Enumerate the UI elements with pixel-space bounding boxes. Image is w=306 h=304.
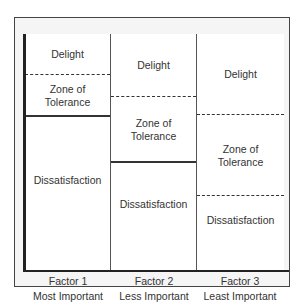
factor1-tolerance-zone: Zone of Tolerance [25, 76, 110, 115]
zone-label: Tolerance [131, 130, 177, 143]
factor3-dissatisfaction-zone: Dissatisfaction [197, 197, 284, 243]
factor3-axis-label: Factor 3 Least Important [190, 274, 290, 304]
factor2-delight-boundary [111, 96, 196, 97]
factor3-tolerance-zone: Zone of Tolerance [197, 116, 284, 195]
zone-label: Zone of [136, 117, 172, 130]
factor3-delight-zone: Delight [197, 34, 284, 114]
x-axis [23, 270, 289, 272]
factor-importance: Less Important [104, 289, 204, 304]
zone-label: Delight [224, 68, 257, 81]
factor3-delight-boundary [197, 114, 284, 115]
factor2-dissatisfaction-zone: Dissatisfaction [111, 163, 196, 245]
factor-importance: Most Important [18, 289, 118, 304]
factor1-delight-zone: Delight [25, 34, 110, 74]
factor1-axis-label: Factor 1 Most Important [18, 274, 118, 304]
factor1-delight-boundary [25, 74, 110, 75]
factor-name: Factor 1 [18, 274, 118, 289]
zone-label: Dissatisfaction [207, 214, 275, 227]
factor2-axis-label: Factor 2 Less Important [104, 274, 204, 304]
factor1-dissatisfaction-zone: Dissatisfaction [25, 117, 110, 243]
factor2-delight-zone: Delight [111, 34, 196, 96]
zone-label: Tolerance [218, 156, 264, 169]
zone-label: Zone of [223, 143, 259, 156]
zone-label: Dissatisfaction [34, 174, 102, 187]
zone-label: Tolerance [45, 96, 91, 109]
zone-label: Dissatisfaction [120, 198, 188, 211]
factor-name: Factor 3 [190, 274, 290, 289]
y-axis [23, 34, 26, 272]
factor-importance: Least Important [190, 289, 290, 304]
zone-label: Zone of [50, 83, 86, 96]
factor2-tolerance-zone: Zone of Tolerance [111, 98, 196, 161]
zone-label: Delight [137, 59, 170, 72]
factor3-dissatisfaction-boundary [197, 195, 284, 196]
zone-label: Delight [51, 48, 84, 61]
factor-name: Factor 2 [104, 274, 204, 289]
